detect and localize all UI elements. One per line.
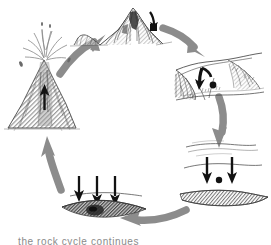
diagram-canvas	[0, 0, 271, 245]
sediment-particle-icon	[210, 82, 217, 89]
diagram-caption: the rock cycle continues	[0, 236, 271, 245]
stage-eroded-hills	[174, 53, 264, 100]
sediment-transport-arrow-icon	[195, 68, 211, 90]
stage-volcano-eruption	[4, 22, 80, 131]
stage-mountain-uplift	[70, 8, 172, 46]
eruption-plume	[23, 29, 67, 60]
stage-deposition-water	[180, 141, 268, 206]
stage-burial-compaction	[62, 176, 146, 217]
arrow-burial-to-volcano	[41, 136, 61, 190]
rock-cycle-diagram: the rock cycle continues	[0, 0, 271, 245]
weathering-arrow-icon	[150, 12, 158, 31]
settling-particle-icon	[216, 177, 222, 183]
sedimentary-bed	[180, 190, 268, 206]
ejecta-fragments	[18, 22, 71, 67]
